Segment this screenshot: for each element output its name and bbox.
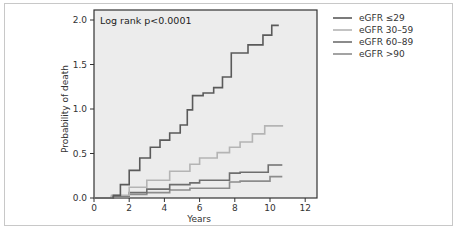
y-tick-label: 0.0 bbox=[73, 193, 88, 203]
x-axis-title: Years bbox=[186, 214, 211, 224]
x-tick-label: 4 bbox=[162, 203, 168, 213]
x-tick-label: 2 bbox=[126, 203, 132, 213]
legend-label: eGFR >90 bbox=[359, 49, 405, 59]
legend-label: eGFR 30–59 bbox=[359, 25, 413, 35]
log-rank-annotation: Log rank p<0.0001 bbox=[100, 15, 192, 26]
x-tick-label: 6 bbox=[197, 203, 203, 213]
y-axis: 0.00.51.01.52.0 bbox=[73, 15, 94, 203]
kaplan-meier-chart: Log rank p<0.0001 0.00.51.01.52.0 024681… bbox=[0, 0, 460, 230]
y-tick-label: 1.0 bbox=[73, 104, 88, 114]
y-tick-label: 1.5 bbox=[73, 60, 87, 70]
x-tick-label: 10 bbox=[264, 203, 276, 213]
x-axis: 024681012 bbox=[91, 198, 311, 213]
plot-area bbox=[94, 10, 317, 198]
y-tick-label: 0.5 bbox=[73, 149, 87, 159]
x-tick-label: 8 bbox=[232, 203, 238, 213]
x-tick-label: 12 bbox=[299, 203, 310, 213]
legend-label: eGFR 60–89 bbox=[359, 37, 413, 47]
legend-label: eGFR ≤29 bbox=[359, 13, 405, 23]
legend: eGFR ≤29eGFR 30–59eGFR 60–89eGFR >90 bbox=[333, 13, 413, 59]
y-axis-title: Probability of death bbox=[60, 65, 70, 153]
x-tick-label: 0 bbox=[91, 203, 97, 213]
y-tick-label: 2.0 bbox=[73, 15, 88, 25]
